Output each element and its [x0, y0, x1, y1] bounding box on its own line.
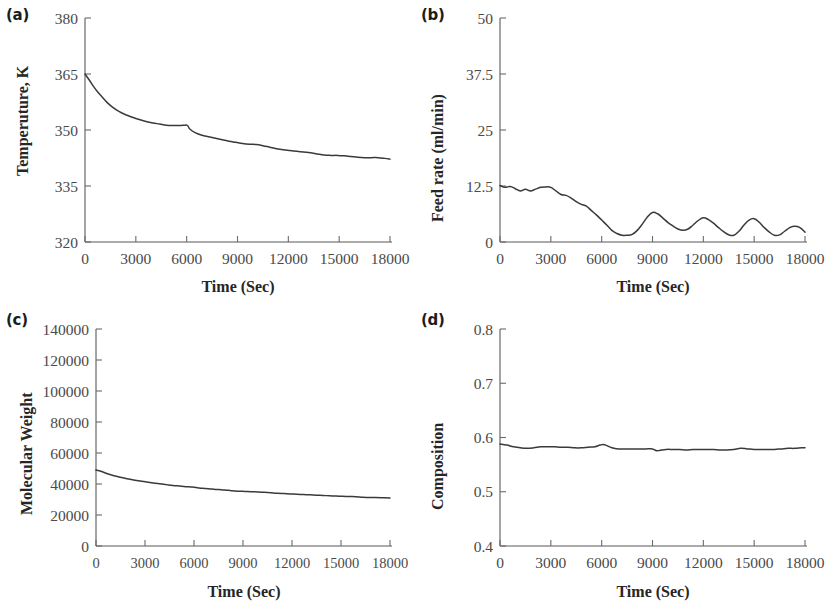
panel-a-y-tick-label: 335 [55, 178, 79, 195]
panel-d-x-tick-label: 12000 [684, 554, 723, 571]
panel-c-x-axis-title: Time (Sec) [207, 583, 280, 601]
panel-b-y-tick-label: 37.5 [466, 66, 493, 83]
panel-c-y-tick-label: 80000 [50, 414, 89, 431]
panel-d-x-axis-title: Time (Sec) [616, 583, 689, 601]
panel-c-y-tick-label: 60000 [50, 445, 89, 462]
panel-d-x-tick-label: 18000 [786, 554, 825, 571]
panel-d-y-tick-label: 0.5 [474, 483, 494, 500]
panel-b-x-ticks [500, 236, 805, 242]
panel-c-x-tick-label: 3000 [131, 555, 160, 571]
panel-c-axes [96, 329, 392, 546]
panel-a-x-tick-label: 12000 [269, 250, 308, 267]
panel-a-y-tick-labels: 320335350365380 [55, 10, 79, 251]
panel-b-x-tick-label: 12000 [684, 250, 723, 267]
panel-c-y-tick-label: 40000 [50, 476, 89, 493]
panel-c-x-tick-label: 6000 [180, 555, 209, 571]
panel-a-y-axis-title: Temperuture, K [14, 65, 32, 176]
panel-d-x-tick-label: 15000 [735, 554, 774, 571]
panel-c-x-tick-label: 9000 [229, 555, 258, 571]
panel-a-axes [85, 18, 392, 242]
panel-d-y-tick-label: 0.4 [474, 538, 494, 555]
panel-c: (c) 020000400006000080000100000120000140… [0, 305, 415, 609]
panel-a-x-axis-title: Time (Sec) [201, 278, 274, 296]
panel-d-y-ticks [500, 329, 506, 546]
panel-d-x-tick-label: 6000 [586, 554, 617, 571]
panel-a-x-tick-labels: 0300060009000120001500018000 [81, 250, 410, 267]
panel-d-y-axis-title: Composition [429, 423, 447, 510]
panel-b-axes [500, 18, 807, 242]
panel-d-x-ticks [500, 540, 805, 546]
panel-d: (d) 0.40.50.60.70.8 03000600090001200015… [415, 305, 830, 609]
panel-c-y-tick-label: 20000 [50, 507, 89, 524]
panel-b-y-tick-label: 25 [478, 122, 494, 139]
panel-a-plot: 320335350365380 030006000900012000150001… [0, 0, 415, 304]
panel-a-series-temperature [85, 74, 390, 159]
panel-a-x-tick-label: 3000 [120, 250, 151, 267]
panel-a-y-ticks [85, 18, 91, 242]
panel-c-x-tick-labels: 0300060009000120001500018000 [92, 555, 408, 571]
panel-b-x-tick-label: 15000 [735, 250, 774, 267]
panel-a: (a) 320335350365380 03000600090001200015… [0, 0, 415, 304]
panel-d-y-tick-label: 0.7 [474, 375, 494, 392]
panel-a-y-tick-label: 365 [55, 66, 79, 83]
panel-b-x-tick-label: 0 [496, 250, 504, 267]
panel-c-y-axis-title: Molecular Weight [18, 392, 36, 515]
panel-d-x-tick-label: 0 [496, 554, 504, 571]
panel-d-x-tick-labels: 0300060009000120001500018000 [496, 554, 825, 571]
panel-d-plot: 0.40.50.60.70.8 030006000900012000150001… [415, 305, 830, 609]
panel-a-x-tick-label: 0 [81, 250, 89, 267]
panel-d-y-tick-labels: 0.40.50.60.70.8 [474, 321, 494, 555]
panel-c-y-tick-label: 0 [81, 538, 89, 555]
panel-a-y-tick-label: 320 [55, 234, 79, 251]
panel-a-x-tick-label: 15000 [320, 250, 359, 267]
panel-c-x-tick-label: 12000 [274, 555, 310, 571]
panel-b-x-tick-label: 18000 [786, 250, 825, 267]
panel-d-label: (d) [421, 311, 445, 329]
panel-b: (b) 012.52537.550 0300060009000120001500… [415, 0, 830, 304]
panel-c-y-tick-label: 100000 [43, 383, 90, 400]
panel-c-y-ticks [96, 329, 102, 546]
panel-a-x-tick-label: 6000 [171, 250, 202, 267]
panel-d-x-tick-label: 3000 [535, 554, 566, 571]
panel-b-x-tick-labels: 0300060009000120001500018000 [496, 250, 825, 267]
panel-b-x-tick-label: 3000 [535, 250, 566, 267]
panel-b-y-tick-label: 50 [478, 10, 494, 27]
panel-d-y-tick-label: 0.8 [474, 321, 494, 338]
panel-b-y-tick-labels: 012.52537.550 [466, 10, 493, 251]
panel-a-y-tick-label: 350 [55, 122, 79, 139]
panel-d-series-composition [500, 444, 805, 451]
panel-a-label: (a) [6, 6, 29, 24]
panel-c-x-tick-label: 0 [92, 555, 99, 571]
panel-c-plot: 020000400006000080000100000120000140000 … [0, 305, 415, 609]
panel-b-y-axis-title: Feed rate (ml/min) [429, 94, 447, 222]
panel-d-axes [500, 329, 807, 546]
panel-b-x-axis-title: Time (Sec) [616, 278, 689, 296]
panel-a-x-tick-label: 9000 [222, 250, 253, 267]
panel-b-label: (b) [421, 6, 445, 24]
panel-a-y-tick-label: 380 [55, 10, 79, 27]
panel-b-y-tick-label: 0 [485, 234, 493, 251]
panel-a-x-tick-label: 18000 [371, 250, 410, 267]
figure-container: (a) 320335350365380 03000600090001200015… [0, 0, 830, 609]
panel-b-y-tick-label: 12.5 [466, 178, 493, 195]
panel-c-x-tick-label: 18000 [372, 555, 408, 571]
panel-a-x-ticks [85, 236, 390, 242]
panel-b-series-feed-rate [500, 186, 805, 236]
panel-c-y-tick-label: 120000 [43, 352, 90, 369]
panel-b-x-tick-label: 9000 [637, 250, 668, 267]
panel-d-x-tick-label: 9000 [637, 554, 668, 571]
panel-d-y-tick-label: 0.6 [474, 429, 494, 446]
panel-c-series-molecular-weight [96, 470, 390, 498]
panel-c-x-tick-label: 15000 [323, 555, 359, 571]
panel-b-y-ticks [500, 18, 506, 242]
panel-c-label: (c) [6, 311, 28, 329]
panel-b-x-tick-label: 6000 [586, 250, 617, 267]
panel-c-x-ticks [96, 540, 390, 546]
panel-c-y-tick-labels: 020000400006000080000100000120000140000 [43, 321, 90, 555]
panel-c-y-tick-label: 140000 [43, 321, 90, 338]
panel-b-plot: 012.52537.550 03000600090001200015000180… [415, 0, 830, 304]
